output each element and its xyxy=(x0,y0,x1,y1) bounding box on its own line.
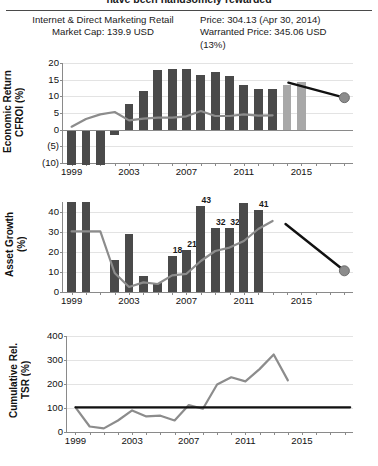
x-tick-mark xyxy=(330,163,331,166)
y-tick-mark xyxy=(64,432,67,433)
x-tick-mark xyxy=(175,432,176,435)
y-tick-label: (10) xyxy=(42,158,59,168)
x-tick-mark xyxy=(316,163,317,166)
x-tick-label: 1999 xyxy=(61,167,82,177)
chart-tsr-plot-area: 010020030040019992003200720112015 xyxy=(66,336,353,433)
x-tick-label: 1999 xyxy=(65,436,86,446)
chart-asset-growth-plot-area: 0102030401999200320072011201518214332324… xyxy=(62,202,353,293)
forecast-endpoint-dot xyxy=(339,266,349,276)
x-tick-mark xyxy=(287,292,288,295)
x-tick-mark xyxy=(258,163,259,166)
header: Internet & Direct Marketing Retail Marke… xyxy=(0,14,378,56)
x-tick-label: 2015 xyxy=(291,436,312,446)
series-line xyxy=(288,83,344,98)
x-tick-label: 2011 xyxy=(234,296,255,306)
x-tick-mark xyxy=(258,292,259,295)
y-tick-mark xyxy=(60,163,63,164)
x-tick-mark xyxy=(345,432,346,435)
x-tick-mark xyxy=(90,432,91,435)
y-tick-label: 5 xyxy=(54,108,59,118)
valuation-info: Price: 304.13 (Apr 30, 2014) Warranted P… xyxy=(200,14,376,51)
x-tick-mark xyxy=(203,432,204,435)
x-tick-mark xyxy=(115,292,116,295)
y-tick-label: 30 xyxy=(48,227,59,237)
zero-baseline xyxy=(63,130,353,132)
x-tick-mark xyxy=(201,163,202,166)
x-tick-mark xyxy=(274,432,275,435)
x-tick-mark xyxy=(158,163,159,166)
x-tick-mark xyxy=(86,292,87,295)
series-line xyxy=(286,224,345,271)
warranted-price-label: Warranted Price: 345.06 USD xyxy=(200,26,376,38)
series-line xyxy=(75,354,287,428)
x-tick-mark xyxy=(230,163,231,166)
chart-asset-growth: Asset Growth (%) 01020304019992003200720… xyxy=(0,190,378,312)
y-tick-label: 10 xyxy=(48,267,59,277)
clipped-heading-band: have been handsomely rewarded xyxy=(0,0,378,10)
x-tick-label: 2015 xyxy=(291,167,312,177)
y-tick-label: 0 xyxy=(58,427,63,437)
y-tick-label: 10 xyxy=(48,92,59,102)
y-tick-label: 200 xyxy=(47,379,63,389)
x-tick-mark xyxy=(172,163,173,166)
x-tick-mark xyxy=(172,292,173,295)
y-tick-label: 15 xyxy=(48,75,59,85)
x-tick-label: 2015 xyxy=(291,296,312,306)
series-overlay xyxy=(67,336,353,432)
x-tick-label: 2011 xyxy=(235,436,256,446)
chart-economic-return-cfroi: Economic Return CFROI (%) (10)(5)0510152… xyxy=(0,58,378,180)
x-tick-mark xyxy=(260,432,261,435)
clipped-heading-text: have been handsomely rewarded xyxy=(0,0,378,5)
forecast-endpoint-dot xyxy=(339,93,349,103)
series-overlay xyxy=(63,202,353,292)
y-tick-label: 20 xyxy=(48,58,59,68)
x-tick-mark xyxy=(273,163,274,166)
x-tick-mark xyxy=(215,163,216,166)
x-tick-mark xyxy=(143,292,144,295)
chart-asset-growth-ylabel: Asset Growth (%) xyxy=(4,200,30,288)
chart-cumulative-rel-tsr: Cumulative Rel. TSR (%) 0100200300400199… xyxy=(0,322,378,466)
x-tick-label: 2003 xyxy=(118,167,139,177)
x-tick-label: 2007 xyxy=(178,436,199,446)
y-tick-label: 300 xyxy=(47,355,63,365)
series-line xyxy=(72,111,273,127)
y-tick-label: 0 xyxy=(54,287,59,297)
x-tick-mark xyxy=(143,163,144,166)
y-tick-mark xyxy=(60,292,63,293)
y-tick-label: 100 xyxy=(47,403,63,413)
x-tick-mark xyxy=(330,292,331,295)
x-tick-mark xyxy=(316,432,317,435)
industry-label: Internet & Direct Marketing Retail xyxy=(8,14,198,26)
market-cap-label: Market Cap: 139.9 USD xyxy=(8,26,198,38)
x-tick-mark xyxy=(217,432,218,435)
x-tick-mark xyxy=(215,292,216,295)
price-label: Price: 304.13 (Apr 30, 2014) xyxy=(200,14,376,26)
x-tick-mark xyxy=(118,432,119,435)
chart-cfroi-plot-area: (10)(5)0510152019992003200720112015 xyxy=(62,63,353,164)
series-overlay xyxy=(63,63,353,163)
x-tick-mark xyxy=(316,292,317,295)
x-tick-label: 2007 xyxy=(176,167,197,177)
x-tick-label: 1999 xyxy=(61,296,82,306)
company-info: Internet & Direct Marketing Retail Marke… xyxy=(8,14,198,39)
series-line xyxy=(72,221,273,287)
x-tick-mark xyxy=(115,163,116,166)
x-tick-mark xyxy=(146,432,147,435)
y-tick-label: (5) xyxy=(47,142,59,152)
y-tick-label: 0 xyxy=(54,125,59,135)
x-tick-mark xyxy=(160,432,161,435)
x-tick-label: 2011 xyxy=(234,167,255,177)
x-tick-mark xyxy=(344,292,345,295)
x-tick-label: 2003 xyxy=(121,436,142,446)
y-tick-label: 40 xyxy=(48,207,59,217)
x-tick-mark xyxy=(230,292,231,295)
x-tick-mark xyxy=(288,432,289,435)
chart-tsr-ylabel: Cumulative Rel. TSR (%) xyxy=(8,334,34,426)
y-tick-label: 20 xyxy=(48,247,59,257)
x-tick-mark xyxy=(201,292,202,295)
x-tick-label: 2007 xyxy=(176,296,197,306)
x-tick-mark xyxy=(158,292,159,295)
x-tick-mark xyxy=(287,163,288,166)
x-tick-mark xyxy=(330,432,331,435)
x-tick-label: 2003 xyxy=(118,296,139,306)
